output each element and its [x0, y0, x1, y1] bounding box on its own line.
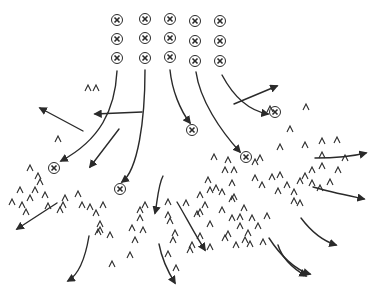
trajectory-arrow: [40, 108, 83, 131]
circled-x-icon: [241, 152, 252, 163]
caret-icon: [42, 192, 48, 198]
caret-icon: [319, 163, 325, 169]
caret-icon: [241, 205, 247, 211]
caret-icon: [287, 126, 293, 132]
circled-x-icon: [190, 36, 201, 47]
caret-icon: [100, 202, 106, 208]
diagram-svg: [0, 0, 382, 306]
trajectory-arrow: [155, 176, 163, 213]
caret-icon: [319, 152, 325, 158]
caret-icon: [167, 218, 173, 224]
caret-icon: [205, 177, 211, 183]
caret-icon: [252, 175, 258, 181]
caret-icon: [202, 202, 208, 208]
caret-icon: [297, 200, 303, 206]
caret-icon: [334, 137, 340, 143]
caret-icon: [137, 215, 143, 221]
caret-icon: [132, 237, 138, 243]
caret-icon: [249, 215, 255, 221]
caret-icon: [207, 244, 213, 250]
caret-icon: [242, 237, 248, 243]
caret-icon: [291, 198, 297, 204]
caret-icon: [237, 214, 243, 220]
caret-icon: [23, 209, 29, 215]
caret-icon: [27, 165, 33, 171]
caret-icon: [327, 179, 333, 185]
caret-icon: [277, 172, 283, 178]
trajectory-arrow: [61, 71, 117, 161]
caret-icon: [335, 167, 341, 173]
circled-x-icon: [112, 34, 123, 45]
trajectory-arrow: [122, 70, 145, 182]
trajectory-arrow: [269, 238, 310, 274]
caret-icon: [309, 180, 315, 186]
trajectory-arrow: [222, 75, 268, 114]
caret-icon: [259, 182, 265, 188]
caret-icon: [213, 185, 219, 191]
caret-icon: [60, 202, 66, 208]
caret-icon: [187, 247, 193, 253]
caret-icon: [189, 242, 195, 248]
caret-icon: [75, 191, 81, 197]
circled-x-icon: [140, 14, 151, 25]
caret-icon: [165, 199, 171, 205]
caret-icon: [303, 104, 309, 110]
caret-icon: [127, 252, 133, 258]
caret-icon: [237, 223, 243, 229]
circled-x-icon: [112, 15, 123, 26]
caret-icon: [233, 242, 239, 248]
caret-icon: [275, 188, 281, 194]
caret-marks: [9, 85, 348, 271]
caret-icon: [319, 138, 325, 144]
caret-icon: [219, 207, 225, 213]
caret-icon: [173, 265, 179, 271]
trajectory-arrow: [95, 112, 142, 114]
circled-x-icon: [215, 16, 226, 27]
caret-icon: [291, 189, 297, 195]
caret-icon: [302, 173, 308, 179]
circled-x-icon: [165, 52, 176, 63]
caret-icon: [55, 136, 61, 142]
circled-x-icon: [49, 163, 60, 174]
caret-icon: [142, 202, 148, 208]
caret-icon: [264, 213, 270, 219]
caret-icon: [245, 230, 251, 236]
caret-icon: [85, 85, 91, 91]
caret-icon: [93, 85, 99, 91]
caret-icon: [87, 204, 93, 210]
caret-icon: [257, 155, 263, 161]
circled-x-icon: [190, 56, 201, 67]
circled-x-icon: [190, 16, 201, 27]
caret-icon: [229, 215, 235, 221]
circled-x-icon: [140, 53, 151, 64]
caret-icon: [269, 174, 275, 180]
caret-icon: [225, 157, 231, 163]
caret-icon: [183, 200, 189, 206]
field-diagram: [0, 0, 382, 306]
caret-icon: [170, 237, 176, 243]
caret-icon: [260, 239, 266, 245]
caret-icon: [172, 230, 178, 236]
caret-icon: [19, 202, 25, 208]
circled-x-icon: [187, 125, 198, 136]
trajectory-arrow: [170, 70, 190, 123]
caret-icon: [197, 233, 203, 239]
caret-icon: [37, 179, 43, 185]
circled-x-icon: [165, 33, 176, 44]
caret-icon: [219, 189, 225, 195]
circled-x-icon: [140, 33, 151, 44]
caret-icon: [62, 195, 68, 201]
trajectory-arrow: [301, 218, 336, 245]
caret-icon: [9, 199, 15, 205]
caret-icon: [197, 209, 203, 215]
caret-icon: [17, 187, 23, 193]
caret-icon: [317, 185, 323, 191]
circled-x-icon: [215, 56, 226, 67]
caret-icon: [57, 207, 63, 213]
caret-icon: [207, 187, 213, 193]
caret-icon: [27, 195, 33, 201]
caret-icon: [222, 235, 228, 241]
caret-icon: [255, 223, 261, 229]
circled-x-icon: [215, 36, 226, 47]
caret-icon: [93, 210, 99, 216]
